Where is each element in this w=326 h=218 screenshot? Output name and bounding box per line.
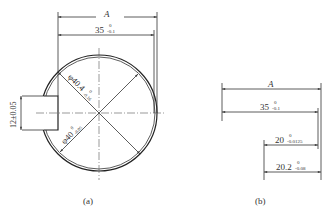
figure-b: A 35 0 -0.1 20 0 -0.0125 20.2 0 -0.08 (b…	[222, 79, 321, 206]
svg-text:0: 0	[289, 133, 292, 138]
svg-text:-0.0125: -0.0125	[287, 139, 303, 144]
svg-text:0: 0	[109, 23, 112, 28]
dim-A-text: A	[103, 9, 110, 19]
technical-drawing: 12±0.05 A 35 0 -0.1 φ40.4 0 -0.16 φ40 0 …	[0, 0, 326, 218]
b-dim-20-2-label: 20.2 0 -0.08	[276, 160, 306, 172]
dim-12-text: 12±0.05	[9, 102, 18, 128]
svg-text:0: 0	[297, 160, 300, 165]
dim-dia-40-4-label: φ40.4 0 -0.16	[66, 71, 97, 102]
svg-text:35: 35	[95, 25, 105, 35]
caption-a: (a)	[83, 196, 93, 206]
svg-text:-0.16: -0.16	[82, 92, 93, 103]
svg-text:20.2: 20.2	[276, 162, 292, 172]
dim-dia-40-label: φ40 0 -0.05	[58, 120, 84, 146]
b-dim-20-label: 20 0 -0.0125	[275, 133, 303, 145]
svg-text:-0.08: -0.08	[295, 166, 306, 171]
svg-text:20: 20	[275, 135, 285, 145]
svg-text:-0.1: -0.1	[107, 29, 115, 34]
dim-35-label: 35 0 -0.1	[95, 23, 115, 35]
caption-b: (b)	[255, 196, 266, 206]
b-dim-35-label: 35 0 -0.1	[260, 100, 280, 112]
svg-text:0: 0	[274, 100, 277, 105]
svg-text:35: 35	[260, 102, 270, 112]
svg-text:-0.1: -0.1	[272, 106, 280, 111]
figure-a: 12±0.05 A 35 0 -0.1 φ40.4 0 -0.16 φ40 0 …	[9, 9, 165, 206]
b-dim-A-text: A	[267, 79, 274, 89]
